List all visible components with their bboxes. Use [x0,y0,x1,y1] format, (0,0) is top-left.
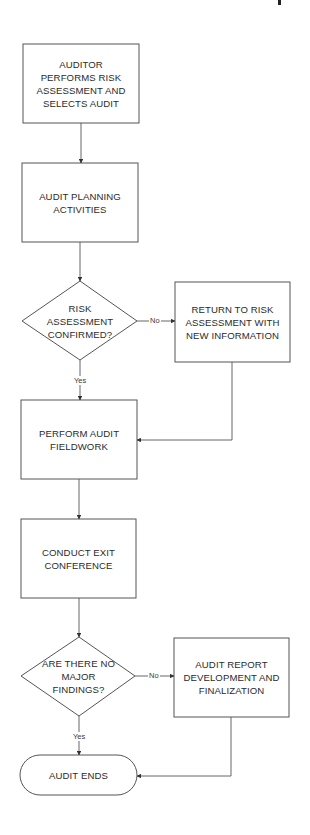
edge-n3-n4 [137,362,232,440]
node-shape-exit-conference [21,519,136,598]
terminal-shape-audit-ends [20,755,137,795]
edge-label-no-1: No [149,316,161,325]
edge-label-no-2: No [148,671,160,680]
decision-shape-no-major-findings [21,637,135,716]
node-shape-audit-planning [22,163,138,242]
node-shape-perform-fieldwork [21,400,137,479]
node-shape-auditor-risk-assessment [23,44,139,123]
node-shape-return-to-risk [175,282,290,362]
decision-shape-risk-confirmed [22,281,137,360]
node-shape-audit-report [174,638,289,717]
flowchart-canvas [0,0,310,835]
edge-label-yes-2: Yes [72,732,86,741]
edge-n6-t1 [137,717,231,776]
edge-label-yes-1: Yes [73,376,87,385]
